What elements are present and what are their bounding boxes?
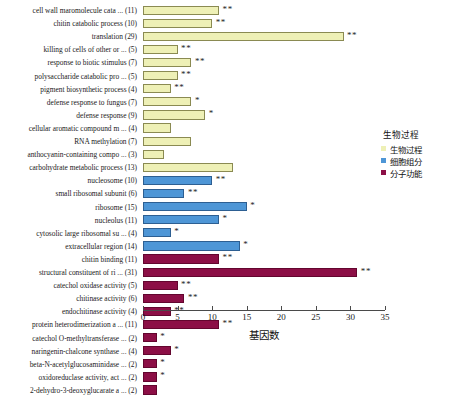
y-axis-label: cellular aromatic compound m ... (4) xyxy=(0,122,137,135)
y-axis-label: polysaccharide catabolic pro ... (5) xyxy=(0,70,137,83)
bar[interactable] xyxy=(143,281,178,290)
y-axis-label: killing of cells of other or ... (5) xyxy=(0,43,137,56)
bar-row: * xyxy=(143,214,385,227)
legend-item-label: 生物过程 xyxy=(390,143,422,155)
bar-row: * xyxy=(143,345,385,358)
bar[interactable] xyxy=(143,359,157,368)
bar[interactable] xyxy=(143,202,247,211)
bar-row: ** xyxy=(143,266,385,279)
legend-item[interactable]: 生物过程 xyxy=(381,143,453,154)
bar[interactable] xyxy=(143,123,171,132)
bar[interactable] xyxy=(143,71,178,80)
bar[interactable] xyxy=(143,294,184,303)
plot-area: **************************************** xyxy=(143,4,385,304)
significance-marker: * xyxy=(250,199,255,212)
legend-item-label: 分子功能 xyxy=(390,167,422,179)
bar[interactable] xyxy=(143,241,240,250)
bar-row xyxy=(143,135,385,148)
y-axis-label: cell wall maromolecule cata ... (11) xyxy=(0,4,137,17)
significance-marker: * xyxy=(195,94,200,107)
bar[interactable] xyxy=(143,110,205,119)
y-axis-label: response to biotic stimulus (7) xyxy=(0,56,137,69)
bar-row: * xyxy=(143,201,385,214)
bar-row: ** xyxy=(143,30,385,43)
legend-item-list: 生物过程细胞组分分子功能 xyxy=(381,143,453,178)
x-axis-tick-label: 5 xyxy=(166,312,190,322)
y-axis-label: protein heterodimerization a ... (11) xyxy=(0,318,137,331)
x-axis-tick xyxy=(316,306,317,310)
bar[interactable] xyxy=(143,32,344,41)
x-axis-tick-label: 20 xyxy=(269,312,293,322)
bar[interactable] xyxy=(143,137,191,146)
bar-row: ** xyxy=(143,279,385,292)
bar[interactable] xyxy=(143,372,157,381)
y-axis-label: chitin binding (11) xyxy=(0,253,137,266)
y-axis-label: defense response to fungus (7) xyxy=(0,96,137,109)
x-axis-tick-label: 15 xyxy=(235,312,259,322)
significance-marker: ** xyxy=(216,16,226,29)
y-axis-label: catechol O-methyltransferase ... (2) xyxy=(0,332,137,345)
bar[interactable] xyxy=(143,268,357,277)
significance-marker: ** xyxy=(181,68,191,81)
significance-marker: ** xyxy=(188,291,198,304)
bar[interactable] xyxy=(143,58,191,67)
x-axis-tick-label: 10 xyxy=(200,312,224,322)
x-axis-tick xyxy=(247,306,248,310)
bar[interactable] xyxy=(143,97,191,106)
significance-marker: ** xyxy=(223,3,233,16)
y-axis-label: ribosome (15) xyxy=(0,201,137,214)
y-axis-label: 2-dehydro-3-deoxyglucarate a ... (2) xyxy=(0,384,137,397)
bar[interactable] xyxy=(143,6,219,15)
significance-marker: * xyxy=(223,212,228,225)
bar[interactable] xyxy=(143,254,219,263)
bar[interactable] xyxy=(143,84,171,93)
x-axis-tick xyxy=(385,306,386,310)
bar[interactable] xyxy=(143,150,164,159)
bar-row: * xyxy=(143,109,385,122)
bar-row: * xyxy=(143,358,385,371)
bar[interactable] xyxy=(143,19,212,28)
significance-marker: ** xyxy=(223,251,233,264)
bar-row: * xyxy=(143,96,385,109)
bar[interactable] xyxy=(143,346,171,355)
significance-marker: * xyxy=(243,238,248,251)
legend: 生物过程 生物过程细胞组分分子功能 xyxy=(381,128,453,179)
x-axis-title: 基因数 xyxy=(143,327,385,342)
significance-marker: ** xyxy=(188,186,198,199)
bar-row xyxy=(143,384,385,397)
bar[interactable] xyxy=(143,215,219,224)
y-axis-label: naringenin-chalcone synthase ... (4) xyxy=(0,345,137,358)
bar-row xyxy=(143,122,385,135)
legend-swatch-icon xyxy=(381,146,386,151)
x-axis-tick xyxy=(350,306,351,310)
bar[interactable] xyxy=(143,385,157,394)
y-axis-category-labels: cell wall maromolecule cata ... (11)chit… xyxy=(0,4,140,304)
legend-item[interactable]: 分子功能 xyxy=(381,167,453,178)
bar-row: ** xyxy=(143,56,385,69)
y-axis-label: nucleosome (10) xyxy=(0,174,137,187)
y-axis-label: endochitinase activity (4) xyxy=(0,305,137,318)
legend-item[interactable]: 细胞组分 xyxy=(381,155,453,166)
bar-row xyxy=(143,148,385,161)
significance-marker: ** xyxy=(181,278,191,291)
bar-row xyxy=(143,161,385,174)
bar[interactable] xyxy=(143,228,171,237)
y-axis-label: cytosolic large ribosomal su ... (4) xyxy=(0,227,137,240)
x-axis-tick xyxy=(178,306,179,310)
y-axis-label: carbohydrate metabolic process (13) xyxy=(0,161,137,174)
bar-row: * xyxy=(143,371,385,384)
bar[interactable] xyxy=(143,176,212,185)
significance-marker: ** xyxy=(361,265,371,278)
y-axis-label: anthocyanin-containing compo ... (3) xyxy=(0,148,137,161)
bar[interactable] xyxy=(143,45,178,54)
y-axis-label: chitinase activity (6) xyxy=(0,292,137,305)
bar[interactable] xyxy=(143,189,184,198)
bar-row: ** xyxy=(143,43,385,56)
significance-marker: ** xyxy=(181,42,191,55)
y-axis-label: translation (29) xyxy=(0,30,137,43)
bar[interactable] xyxy=(143,163,233,172)
y-axis-label: nucleolus (11) xyxy=(0,214,137,227)
y-axis-label: oxidoreduclase activity, act ... (2) xyxy=(0,371,137,384)
significance-marker: ** xyxy=(216,173,226,186)
significance-marker: * xyxy=(160,356,165,369)
